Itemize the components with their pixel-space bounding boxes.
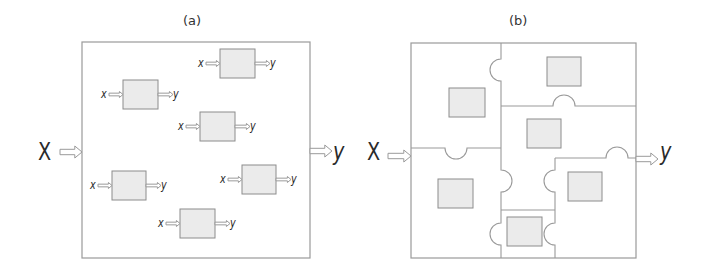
panel-b-input-arrow-icon [388,150,411,162]
diagram-canvas: (a) (b) X y X y x y x y x y x y x y x y [0,0,702,272]
bottom-left-piece-module-box [438,179,473,208]
module-1-input-arrow-icon [206,61,220,67]
module-4-output-arrow-icon [146,183,161,189]
jigsaw-cut-line-1 [490,43,501,148]
module-6-input-arrow-icon [166,221,180,227]
top-right-piece-module-box [547,57,581,86]
module-5-input-label: x [220,173,226,185]
module-6-output-label: y [230,217,236,229]
panel-a-output-label: y [333,140,344,164]
jigsaw-cut-line-5 [501,95,636,106]
module-6-box [180,209,215,238]
module-3-input-arrow-icon [186,124,200,130]
module-4-box [112,171,146,200]
module-3-input-label: x [178,120,184,132]
jigsaw-cut-line-4 [490,210,501,258]
panel-a-label: (a) [183,13,201,28]
jigsaw-cut-line-3 [501,148,512,210]
module-1-box [220,49,255,78]
panel-a-output-arrow-icon [310,145,332,157]
jigsaw-cut-line-9 [555,147,636,158]
module-1-output-arrow-icon [255,61,270,67]
module-5-input-arrow-icon [228,177,242,183]
jigsaw-cut-line-8 [544,210,555,258]
module-1-output-label: y [270,57,276,69]
module-5-output-label: y [291,173,297,185]
module-3-box [200,112,235,141]
jigsaw-cut-line-7 [544,158,555,210]
module-2-output-label: y [173,88,179,100]
module-3-output-label: y [250,120,256,132]
module-4-output-label: y [161,179,167,191]
module-2-box [123,80,158,109]
module-4-input-label: x [90,179,96,191]
panel-b-output-arrow-icon [636,153,658,165]
module-2-output-arrow-icon [158,92,173,98]
panel-b-input-label: X [367,140,380,164]
module-3-output-arrow-icon [235,124,250,130]
right-piece-module-box [568,172,602,201]
panel-a-input-arrow-icon [60,146,82,158]
panel-b-output-label: y [660,140,671,164]
top-left-piece-module-box [449,88,485,117]
jigsaw-cut-line-2 [411,148,501,159]
panel-b-label: (b) [509,13,527,28]
module-2-input-label: x [101,88,107,100]
module-6-output-arrow-icon [215,221,230,227]
panel-a-input-label: X [38,140,51,164]
bottom-center-piece-module-box [507,217,542,246]
middle-piece-module-box [527,119,561,148]
module-5-box [242,165,276,194]
module-6-input-label: x [158,217,164,229]
module-5-output-arrow-icon [276,177,291,183]
module-4-input-arrow-icon [98,183,112,189]
module-1-input-label: x [198,57,204,69]
module-2-input-arrow-icon [109,92,123,98]
diagram-graphic [0,0,702,272]
